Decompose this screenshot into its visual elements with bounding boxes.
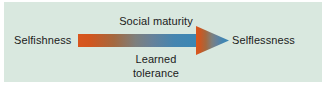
label-learned-tolerance: Learned tolerance [0, 52, 312, 80]
figure-container: Selfishness Social maturity Selflessness [0, 0, 322, 91]
label-learned-tolerance-line1: Learned [0, 52, 312, 66]
label-learned-tolerance-line2: tolerance [0, 66, 312, 80]
label-selfishness: Selfishness [14, 34, 71, 46]
label-selflessness: Selflessness [232, 34, 295, 46]
